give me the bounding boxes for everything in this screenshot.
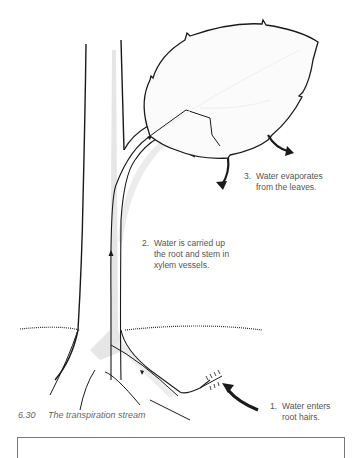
arrow-entry-icon [228, 390, 258, 410]
label-step-2: 2.Water is carried up the root and stem … [142, 238, 229, 271]
figure-number: 6.30 [18, 410, 36, 420]
figure-title: The transpiration stream [48, 410, 146, 420]
soil-line [20, 326, 262, 330]
arrow-evaporation-icon [222, 158, 228, 185]
figure-caption: 6.30 The transpiration stream [18, 410, 146, 420]
root-hairs-icon [200, 370, 222, 390]
label-step-1: 1.Water enters root hairs. [270, 401, 330, 423]
xylem-shade [90, 50, 125, 360]
content-frame [17, 437, 345, 458]
trunk-outline [55, 44, 86, 380]
leaf-outline [144, 20, 318, 158]
label-step-3: 3.Water evaporates from the leaves. [244, 171, 323, 193]
